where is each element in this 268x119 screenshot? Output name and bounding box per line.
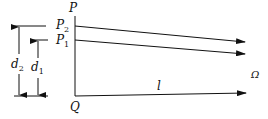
label-q: Q bbox=[70, 100, 80, 114]
label-omega: Ω bbox=[250, 69, 259, 80]
diagram: P P2 P1 Q d2 d1 l Ω bbox=[0, 0, 268, 119]
ray-p1 bbox=[75, 40, 245, 54]
label-l: l bbox=[157, 79, 161, 93]
ray-p2 bbox=[75, 26, 245, 42]
label-p1: P1 bbox=[55, 33, 69, 49]
label-p: P bbox=[68, 1, 78, 15]
label-d1: d1 bbox=[31, 60, 44, 76]
ray-q bbox=[75, 93, 246, 96]
label-d2: d2 bbox=[11, 57, 24, 73]
label-p2: P2 bbox=[55, 18, 69, 34]
